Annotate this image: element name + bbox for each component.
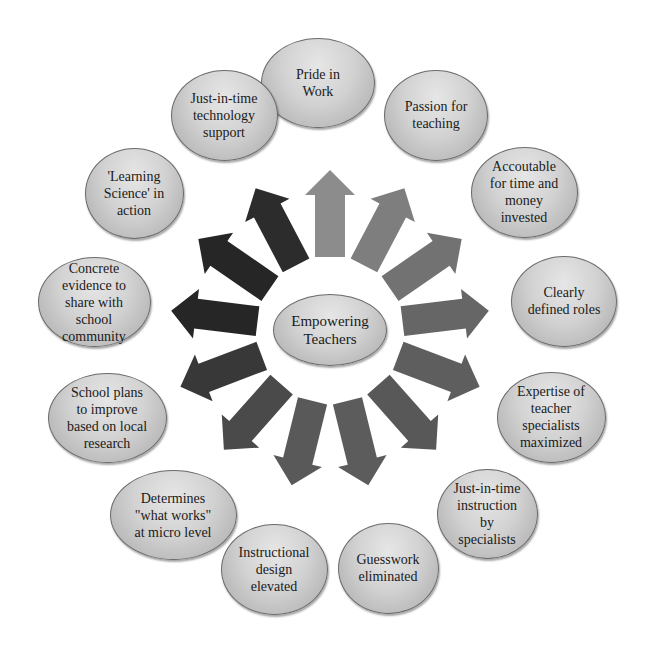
empowering-teachers-diagram: Empowering Teachers Pride in Work Passio… [0,0,651,652]
center-node-empowering-teachers: Empowering Teachers [273,294,387,366]
node-just-in-time-instruction: Just-in-time instruction by specialists [437,469,538,559]
node-concrete-evidence: Concrete evidence to share with school c… [38,257,151,347]
node-just-in-time-technology-support: Just-in-time technology support [171,70,278,161]
node-label: Expertise of teacher specialists maximiz… [517,383,585,451]
node-label: Concrete evidence to share with school c… [62,260,126,345]
node-label: School plans to improve based on local r… [67,384,147,452]
node-determines-what-works: Determines "what works" at micro level [110,470,237,560]
node-guesswork-eliminated: Guesswork eliminated [338,523,439,614]
node-label: Passion for teaching [405,98,468,132]
node-label: Guesswork eliminated [357,551,420,585]
node-passion-for-teaching: Passion for teaching [384,70,488,161]
node-label: Instructional design elevated [239,544,310,595]
node-label: Determines "what works" at micro level [135,490,212,541]
node-label: Pride in Work [296,66,340,100]
node-label: Clearly defined roles [528,284,601,318]
node-pride-in-work: Pride in Work [261,38,375,128]
node-label: Just-in-time technology support [191,90,258,141]
node-label: Accoutable for time and money invested [490,158,558,226]
center-node-label: Empowering Teachers [291,312,368,348]
node-label: Just-in-time instruction by specialists [454,480,521,548]
arrow-icon [399,286,491,346]
node-school-plans-improve: School plans to improve based on local r… [48,373,167,463]
arrow-icon [168,286,260,346]
arrow-icon [305,170,355,257]
node-expertise-maximized: Expertise of teacher specialists maximiz… [497,372,606,463]
node-instructional-design-elevated: Instructional design elevated [221,524,328,615]
node-label: 'Learning Science' in action [104,168,164,219]
node-clearly-defined-roles: Clearly defined roles [511,256,617,347]
node-accountable-time-money: Accoutable for time and money invested [471,147,578,238]
node-learning-science-in-action: 'Learning Science' in action [85,148,184,239]
